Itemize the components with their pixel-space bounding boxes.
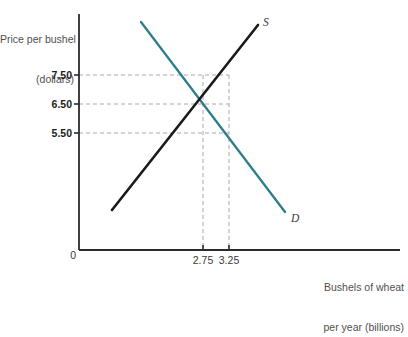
demand-curve-label: D — [291, 211, 299, 226]
y-tick-label-750: 7.50 — [24, 69, 72, 82]
y-tick-label-650: 6.50 — [24, 98, 72, 111]
x-axis-title-line1: Bushels of wheat — [286, 281, 404, 294]
x-axis-title: Bushels of wheat per year (billions) — [286, 254, 404, 337]
origin-label: 0 — [62, 249, 76, 262]
demand-curve — [141, 22, 285, 212]
supply-curve-label: S — [263, 15, 269, 30]
supply-curve — [112, 25, 258, 210]
y-axis-title-line1: Price per bushel — [0, 33, 74, 46]
x-tick-label-325: 3.25 — [209, 254, 249, 267]
x-axis-title-line2: per year (billions) — [286, 321, 404, 334]
y-tick-label-550: 5.50 — [24, 127, 72, 140]
